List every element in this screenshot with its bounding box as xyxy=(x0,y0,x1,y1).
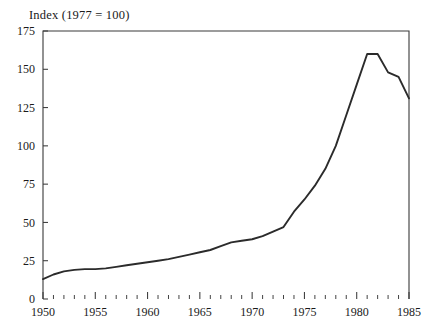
x-tick-label: 1970 xyxy=(240,305,264,319)
x-tick-label: 1960 xyxy=(136,305,160,319)
data-series-line xyxy=(43,54,409,279)
x-axis-major-ticks xyxy=(43,292,409,299)
line-chart: Index (1977 = 100) 0255075100125150175 1… xyxy=(0,0,434,336)
y-tick-label: 25 xyxy=(23,254,35,268)
x-tick-label: 1950 xyxy=(31,305,55,319)
x-tick-label: 1955 xyxy=(83,305,107,319)
y-tick-label: 75 xyxy=(23,177,35,191)
x-tick-label: 1980 xyxy=(345,305,369,319)
chart-figure: Index (1977 = 100) 0255075100125150175 1… xyxy=(0,0,434,336)
y-tick-label: 150 xyxy=(17,62,35,76)
x-tick-label: 1975 xyxy=(292,305,316,319)
y-tick-label: 100 xyxy=(17,139,35,153)
x-axis-minor-ticks xyxy=(53,295,398,299)
y-axis-ticks xyxy=(43,31,48,299)
y-axis-tick-labels: 0255075100125150175 xyxy=(17,24,35,306)
x-axis-tick-labels: 19501955196019651970197519801985 xyxy=(31,305,421,319)
chart-axis-title: Index (1977 = 100) xyxy=(29,8,130,22)
x-tick-label: 1985 xyxy=(397,305,421,319)
y-tick-label: 50 xyxy=(23,216,35,230)
y-tick-label: 125 xyxy=(17,101,35,115)
plot-frame xyxy=(43,31,409,299)
y-tick-label: 175 xyxy=(17,24,35,38)
x-tick-label: 1965 xyxy=(188,305,212,319)
